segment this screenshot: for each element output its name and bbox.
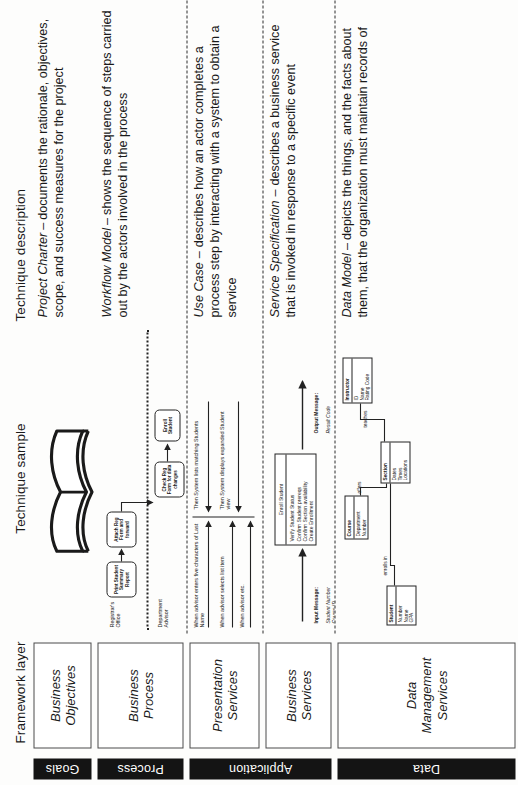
domain-bar-application: Application <box>189 758 331 779</box>
use-case-diagram: When advisor enters five characters of L… <box>186 323 262 633</box>
sample-cell-data-model: Student Number Name GPA Course Departmen… <box>334 323 518 633</box>
framework-box-business-objectives: Business Objectives <box>33 642 91 748</box>
domain-cell-data: Data <box>334 751 518 785</box>
dash-0: – <box>35 219 49 232</box>
service-message-arrows <box>262 323 334 633</box>
description-cell-service-specification: Service Specification–describes a busine… <box>262 0 334 323</box>
framework-grid: Framework layer Technique sample Techniq… <box>0 0 518 785</box>
domain-cell-process: Process <box>94 751 186 785</box>
framework-table-page: Framework layer Technique sample Techniq… <box>0 0 518 785</box>
framework-label-business-services: Business Services <box>283 669 314 722</box>
framework-cell-presentation-services: Presentation Services <box>186 633 262 751</box>
domain-column-header <box>0 751 30 785</box>
use-case-arrows <box>186 323 262 633</box>
domain-label-goals: Goals <box>45 762 79 776</box>
framework-label-business-objectives: Business Objectives <box>47 665 78 726</box>
sample-cell-project-charter <box>30 323 94 633</box>
framework-box-business-process: Business Process <box>97 642 183 748</box>
domain-bar-goals: Goals <box>33 758 91 779</box>
domain-label-process: Process <box>117 762 164 776</box>
technique-description-header: Technique description <box>0 0 30 323</box>
sample-cell-workflow-model: Registrar's Office Department Advisor Pr… <box>94 323 186 633</box>
framework-label-data-management-services: Data Management Services <box>403 657 449 733</box>
dash-1: – <box>99 214 113 227</box>
data-model-relationship-lines <box>334 323 518 633</box>
dash-2: – <box>191 247 205 262</box>
domain-label-data: Data <box>412 762 439 776</box>
technique-name-project-charter: Project Charter <box>35 232 49 317</box>
description-cell-data-model: Data Model–depicts the things, and the f… <box>334 0 518 323</box>
description-cell-project-charter: Project Charter–documents the rationale,… <box>30 0 94 323</box>
domain-bar-process: Process <box>97 758 183 779</box>
data-model-diagram: Student Number Name GPA Course Departmen… <box>334 323 518 633</box>
sample-cell-use-case: When advisor enters five characters of L… <box>186 323 262 633</box>
technique-name-service-specification: Service Specification <box>267 200 281 317</box>
workflow-connectors <box>94 323 186 633</box>
framework-box-business-services: Business Services <box>265 642 331 748</box>
technique-name-data-model: Data Model <box>339 253 353 317</box>
framework-box-data-management-services: Data Management Services <box>337 642 515 748</box>
technique-name-workflow-model: Workflow Model <box>99 227 113 317</box>
description-cell-use-case: Use Case–describes how an actor complete… <box>186 0 262 323</box>
framework-label-business-process: Business Process <box>125 669 156 722</box>
dash-3: – <box>267 185 281 200</box>
framework-layer-header: Framework layer <box>0 633 30 751</box>
description-cell-workflow-model: Workflow Model–shows the sequence of ste… <box>94 0 186 323</box>
domain-cell-application: Application <box>186 751 334 785</box>
domain-label-application: Application <box>228 761 291 775</box>
domain-cell-goals: Goals <box>30 751 94 785</box>
framework-cell-business-objectives: Business Objectives <box>30 633 94 751</box>
framework-cell-business-services: Business Services <box>262 633 334 751</box>
domain-bar-data: Data <box>337 758 515 779</box>
technique-sample-header: Technique sample <box>0 323 30 633</box>
framework-box-presentation-services: Presentation Services <box>189 642 259 748</box>
framework-cell-business-process: Business Process <box>94 633 186 751</box>
dash-4: – <box>339 240 353 253</box>
technique-name-use-case: Use Case <box>191 262 205 317</box>
workflow-diagram: Registrar's Office Department Advisor Pr… <box>94 323 186 633</box>
framework-label-presentation-services: Presentation Services <box>209 659 240 732</box>
service-spec-diagram: Enroll Student Verify Student Status Con… <box>262 323 334 633</box>
sample-cell-service-specification: Enroll Student Verify Student Status Con… <box>262 323 334 633</box>
book-icon <box>36 411 94 561</box>
framework-cell-data-management-services: Data Management Services <box>334 633 518 751</box>
rotated-page-wrapper: Framework layer Technique sample Techniq… <box>0 0 518 785</box>
